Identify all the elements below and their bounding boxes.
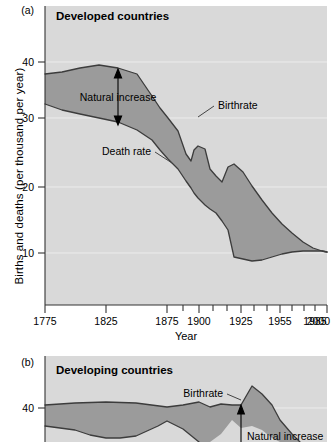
x-tick-label-1825: 1825 bbox=[94, 315, 118, 327]
panel-title-b: Developing countries bbox=[56, 364, 173, 376]
y-tick-label-10: 10 bbox=[22, 247, 34, 259]
x-tick-label-1775: 1775 bbox=[33, 315, 57, 327]
x-tick-label-1925: 1925 bbox=[229, 315, 253, 327]
annotation-birthrate-a: Birthrate bbox=[218, 99, 258, 111]
panel-tag-a: (a) bbox=[21, 4, 34, 16]
x-tick-label-2000: 2000 bbox=[307, 315, 331, 327]
annotation-death-rate-a: Death rate bbox=[102, 145, 151, 157]
panel-title-a: Developed countries bbox=[56, 10, 169, 22]
panel-developing-countries: 40 (b) Developing countries Birthrate Na… bbox=[0, 350, 335, 442]
annotation-natural-increase-b: Natural increase bbox=[247, 430, 324, 442]
y-tick-label-30: 30 bbox=[22, 112, 34, 124]
x-tick-label-1875: 1875 bbox=[155, 315, 179, 327]
y-tick-label-40: 40 bbox=[22, 56, 34, 68]
figure-container: Births and deaths (per thousand per year… bbox=[0, 0, 335, 442]
x-axis-a bbox=[45, 305, 327, 313]
panel-developed-countries: 40 30 20 10 1775 1825 1875 1900 1925 195… bbox=[0, 0, 335, 335]
annotation-natural-increase-a: Natural increase bbox=[80, 91, 157, 103]
x-tick-label-1900: 1900 bbox=[187, 315, 211, 327]
y-tick-label-20: 20 bbox=[22, 181, 34, 193]
x-tick-label-1955: 1955 bbox=[268, 315, 292, 327]
y-axis-a bbox=[38, 6, 45, 305]
panel-tag-b: (b) bbox=[21, 356, 34, 368]
x-axis-title: Year bbox=[45, 330, 327, 342]
y-axis-b bbox=[38, 356, 45, 442]
y-tick-label-40-b: 40 bbox=[22, 402, 34, 414]
annotation-birthrate-b: Birthrate bbox=[183, 387, 223, 399]
